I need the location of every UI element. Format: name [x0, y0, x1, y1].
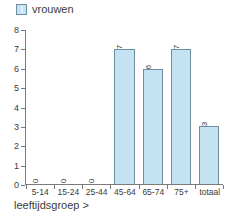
bar-value-label: 6 — [145, 64, 153, 68]
chart-legend: vrouwen — [16, 4, 74, 15]
y-axis-tick — [21, 69, 25, 70]
x-axis-category-label: 5-14 — [26, 188, 54, 197]
bar-slot[interactable]: 0 — [82, 30, 110, 184]
y-axis-tick-label: 8 — [14, 26, 19, 35]
y-axis-tick — [21, 166, 25, 167]
x-axis-category-label: 75+ — [167, 188, 195, 197]
y-axis-tick-label: 5 — [14, 84, 19, 93]
x-axis-title: leeftijdsgroep > — [14, 199, 89, 211]
bar-series-vrouwen: 0007673 — [26, 30, 223, 184]
y-axis-tick — [21, 30, 25, 31]
y-axis-tick-label: 6 — [14, 64, 19, 73]
bar-slot[interactable]: 0 — [26, 30, 54, 184]
legend-swatch-vrouwen — [16, 4, 27, 15]
bar-slot[interactable]: 7 — [110, 30, 138, 184]
y-axis-tick — [21, 127, 25, 128]
bar-slot[interactable]: 3 — [195, 30, 223, 184]
bar-value-label: 7 — [116, 45, 124, 49]
plot-area: 012345678 0007673 — [25, 30, 223, 185]
bar-chart: vrouwen 012345678 0007673 5-1415-2425-44… — [0, 0, 230, 215]
bar-slot[interactable]: 6 — [139, 30, 167, 184]
bar-slot[interactable]: 0 — [54, 30, 82, 184]
x-axis-category-label: totaal — [196, 188, 224, 197]
x-axis-category-label: 25-44 — [83, 188, 111, 197]
bar[interactable]: 7 — [114, 49, 134, 184]
y-axis-tick-label: 2 — [14, 142, 19, 151]
y-axis-tick — [21, 146, 25, 147]
bar-value-label: 3 — [201, 122, 209, 126]
y-axis-tick-label: 0 — [14, 181, 19, 190]
x-axis-category-label: 65-74 — [139, 188, 167, 197]
x-axis-category-label: 45-64 — [111, 188, 139, 197]
legend-label-vrouwen: vrouwen — [32, 4, 74, 15]
y-axis-tick-label: 7 — [14, 45, 19, 54]
bar-value-label: 0 — [88, 179, 96, 183]
bar-value-label: 7 — [173, 45, 181, 49]
y-axis-tick — [21, 185, 25, 186]
bar-slot[interactable]: 7 — [167, 30, 195, 184]
y-axis-tick-label: 3 — [14, 122, 19, 131]
y-axis-tick-label: 1 — [14, 161, 19, 170]
y-axis-tick — [21, 88, 25, 89]
bar[interactable]: 6 — [143, 69, 163, 185]
y-axis-tick — [21, 49, 25, 50]
bar-value-label: 0 — [32, 179, 40, 183]
x-axis-category-label: 15-24 — [54, 188, 82, 197]
bar[interactable]: 3 — [199, 126, 219, 184]
x-axis-category-labels: 5-1415-2425-4445-6465-7475+totaal — [26, 188, 224, 197]
bar-value-label: 0 — [60, 179, 68, 183]
bar[interactable]: 7 — [171, 49, 191, 184]
y-axis-tick-label: 4 — [14, 103, 19, 112]
y-axis-tick — [21, 108, 25, 109]
